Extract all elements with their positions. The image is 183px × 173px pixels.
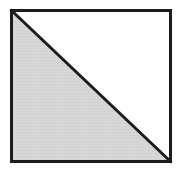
geometry-figure: Square divided by a diagonal with lower-… — [0, 0, 183, 173]
figure-canvas: Square divided by a diagonal with lower-… — [0, 0, 183, 173]
